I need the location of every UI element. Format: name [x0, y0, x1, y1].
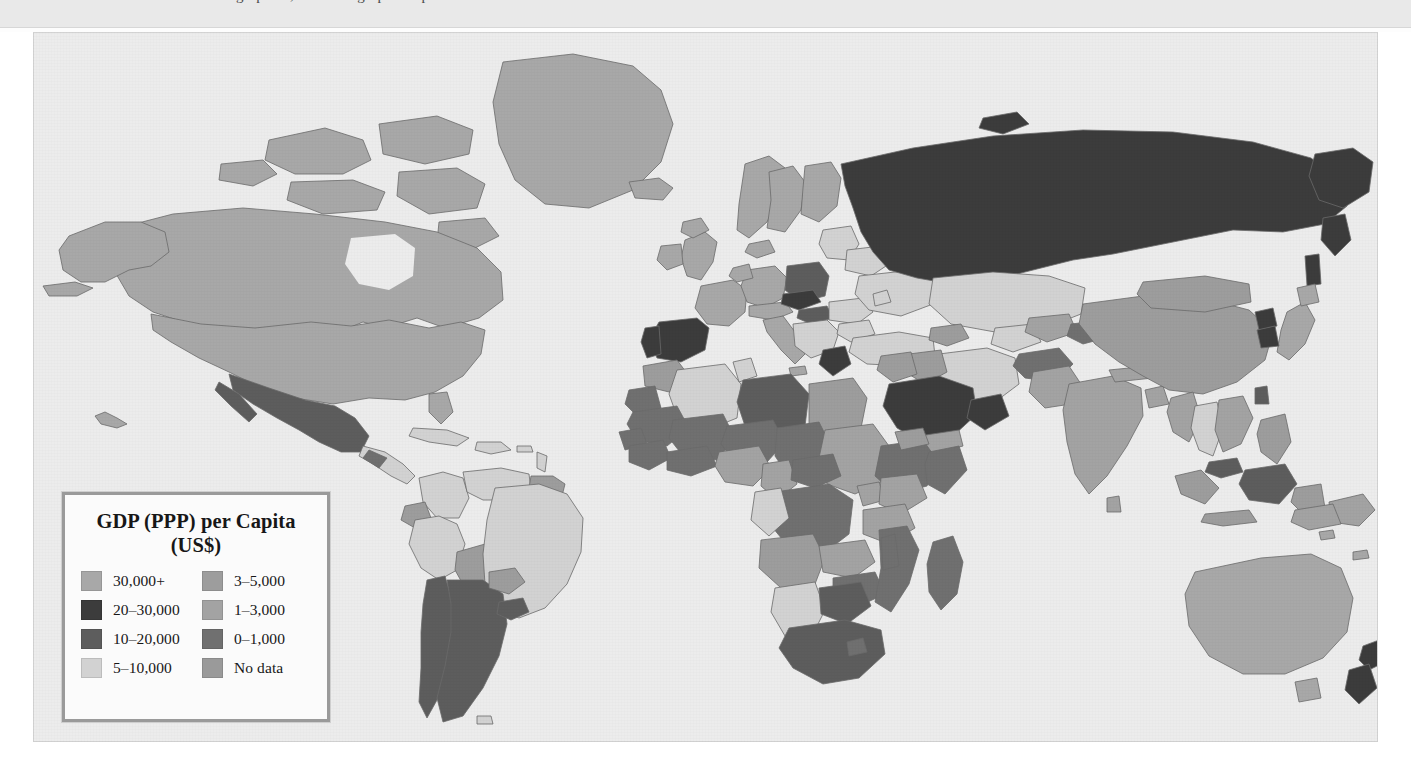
- region-falklands: [477, 716, 493, 724]
- legend-label-3-5000: 3–5,000: [234, 572, 285, 590]
- legend-title: GDP (PPP) per Capita (US$): [73, 509, 319, 557]
- legend-item-0-1000: 0–1,000: [202, 629, 313, 649]
- legend-label-30000plus: 30,000+: [113, 572, 165, 590]
- legend-swatch-5-10000: [81, 658, 102, 678]
- legend-label-0-1000: 0–1,000: [234, 630, 285, 648]
- region-pacific-islands-2: [1353, 550, 1369, 560]
- legend-label-20-30000: 20–30,000: [113, 601, 180, 619]
- clipped-caption-text: ographies, and cartographic representati…: [228, 0, 748, 5]
- legend-label-10-20000: 10–20,000: [113, 630, 180, 648]
- page-top-band: ographies, and cartographic representati…: [0, 0, 1411, 28]
- legend-label-1-3000: 1–3,000: [234, 601, 285, 619]
- region-tasmania: [1295, 678, 1321, 702]
- legend-swatch-3-5000: [202, 571, 223, 591]
- region-sakhalin: [1305, 254, 1321, 286]
- legend-item-10-20000: 10–20,000: [81, 629, 192, 649]
- legend-title-line1: GDP (PPP) per Capita: [96, 510, 295, 532]
- region-pacific-islands-1: [1319, 530, 1335, 540]
- legend-item-5-10000: 5–10,000: [81, 658, 192, 678]
- legend-swatch-10-20000: [81, 629, 102, 649]
- legend-item-3-5000: 3–5,000: [202, 571, 313, 591]
- legend-label-no-data: No data: [234, 659, 283, 677]
- region-sri-lanka: [1107, 496, 1121, 512]
- region-taiwan: [1255, 386, 1269, 404]
- region-hokkaido: [1297, 284, 1319, 306]
- map-legend: GDP (PPP) per Capita (US$) 30,000+ 3–5,0…: [62, 492, 330, 722]
- legend-swatch-30000plus: [81, 571, 102, 591]
- legend-item-30000plus: 30,000+: [81, 571, 192, 591]
- legend-items-grid: 30,000+ 3–5,000 20–30,000 1–3,000 10–20,: [73, 571, 319, 678]
- legend-title-line2: (US$): [73, 533, 319, 557]
- legend-label-5-10000: 5–10,000: [113, 659, 172, 677]
- scanned-page: ographies, and cartographic representati…: [0, 0, 1411, 784]
- legend-swatch-0-1000: [202, 629, 223, 649]
- region-puerto-rico: [517, 446, 533, 452]
- legend-swatch-1-3000: [202, 600, 223, 620]
- legend-item-no-data: No data: [202, 658, 313, 678]
- region-lesser-antilles: [537, 452, 547, 472]
- legend-swatch-no-data: [202, 658, 223, 678]
- world-map-figure: .c { stroke:#6b6b6b; stroke-width:.8; st…: [33, 32, 1378, 742]
- legend-item-20-30000: 20–30,000: [81, 600, 192, 620]
- legend-item-1-3000: 1–3,000: [202, 600, 313, 620]
- region-south-korea: [1257, 326, 1279, 348]
- legend-swatch-20-30000: [81, 600, 102, 620]
